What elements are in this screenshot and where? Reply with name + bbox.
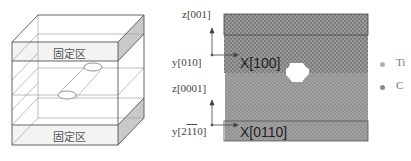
legend: Ti C <box>380 56 410 96</box>
lower-x-direction-label: X[0110] <box>240 124 287 140</box>
bottom-fixed-region-label: 固定区 <box>53 128 86 144</box>
upper-z-axis-label: z[001] <box>182 8 211 20</box>
top-fixed-region-label: 固定区 <box>53 45 86 61</box>
upper-x-direction-label: X[100] <box>240 55 280 71</box>
lower-z-axis-label: z[0001] <box>172 82 206 94</box>
upper-y-axis-label: y[010] <box>172 56 201 68</box>
lower-y-axis-label-suffix: 0] <box>197 125 206 137</box>
legend-c-label: C <box>396 79 403 91</box>
legend-ti-dot-icon <box>380 62 385 67</box>
legend-ti-label: Ti <box>396 56 405 68</box>
lower-y-axis-label: y[2110] <box>172 125 206 137</box>
legend-c-dot-icon <box>380 85 385 90</box>
box-schematic: 固定区 固定区 <box>0 0 170 161</box>
atomic-structure-panel: z[001] y[010] z[0001] y[2110] X[100] X[0… <box>170 0 411 161</box>
lower-y-axis-label-prefix: y[2 <box>172 125 187 137</box>
